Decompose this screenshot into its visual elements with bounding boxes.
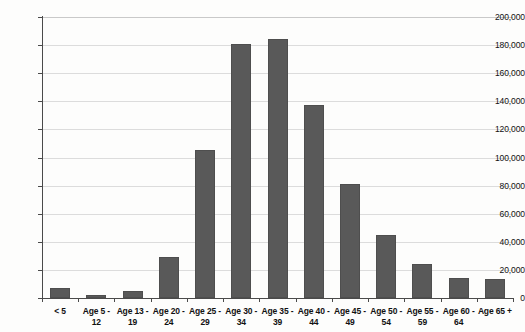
bar-chart: 020,00040,00060,00080,000100,000120,0001… bbox=[0, 0, 525, 332]
y-axis-tick-label: 160,000 bbox=[489, 68, 525, 78]
y-axis-tick-label: 0 bbox=[489, 293, 525, 303]
x-axis-tick-mark bbox=[114, 298, 115, 302]
bar bbox=[268, 39, 288, 298]
bar bbox=[449, 278, 469, 298]
x-axis-tick-mark bbox=[404, 298, 405, 302]
y-axis-tick-label: 140,000 bbox=[489, 96, 525, 106]
bar bbox=[412, 264, 432, 298]
y-axis-line bbox=[42, 16, 43, 299]
y-axis-tick-mark bbox=[38, 73, 42, 74]
x-axis-tick-mark bbox=[187, 298, 188, 302]
x-axis-tick-label-line1: Age 5 - bbox=[83, 306, 110, 316]
x-axis-tick-mark bbox=[332, 298, 333, 302]
y-axis-tick-mark bbox=[38, 214, 42, 215]
x-axis-tick-label: Age 65 + bbox=[473, 306, 517, 317]
x-axis-line bbox=[42, 298, 514, 299]
x-axis-tick-mark bbox=[513, 298, 514, 302]
y-axis-tick-label: 180,000 bbox=[489, 40, 525, 50]
x-axis-tick-label-line1: Age 45 - bbox=[334, 306, 366, 316]
x-axis-tick-mark bbox=[42, 298, 43, 302]
x-axis-tick-label-line1: Age 40 - bbox=[298, 306, 330, 316]
x-axis-tick-label-line1: Age 50 - bbox=[370, 306, 402, 316]
bar bbox=[195, 150, 215, 298]
y-axis-tick-label: 200,000 bbox=[489, 12, 525, 22]
x-axis-tick-label-line1: Age 30 - bbox=[225, 306, 257, 316]
x-axis-tick-mark bbox=[223, 298, 224, 302]
x-axis-tick-label-line1: Age 25 - bbox=[189, 306, 221, 316]
y-axis-tick-mark bbox=[38, 45, 42, 46]
gridline bbox=[42, 17, 513, 18]
y-axis-tick-mark bbox=[38, 158, 42, 159]
x-axis-tick-label-line1: Age 20 - bbox=[153, 306, 185, 316]
bar bbox=[340, 184, 360, 299]
y-axis-tick-mark bbox=[38, 270, 42, 271]
bar bbox=[123, 291, 143, 298]
x-axis-tick-label-line1: Age 60 - bbox=[443, 306, 475, 316]
bar bbox=[376, 235, 396, 298]
x-axis-tick-mark bbox=[477, 298, 478, 302]
y-axis-tick-mark bbox=[38, 129, 42, 130]
x-axis-tick-mark bbox=[296, 298, 297, 302]
y-axis-tick-mark bbox=[38, 242, 42, 243]
x-axis-tick-label-line1: Age 13 - bbox=[117, 306, 149, 316]
bar bbox=[304, 105, 324, 298]
x-axis-tick-mark bbox=[259, 298, 260, 302]
y-axis-tick-label: 60,000 bbox=[489, 209, 525, 219]
x-axis-tick-mark bbox=[368, 298, 369, 302]
y-axis-tick-label: 80,000 bbox=[489, 181, 525, 191]
bar bbox=[50, 288, 70, 298]
plot-area bbox=[42, 17, 513, 298]
y-axis-tick-label: 120,000 bbox=[489, 124, 525, 134]
y-axis-tick-label: 20,000 bbox=[489, 265, 525, 275]
y-axis-tick-mark bbox=[38, 101, 42, 102]
x-axis-tick-mark bbox=[151, 298, 152, 302]
x-axis-tick-label-line1: Age 35 - bbox=[262, 306, 294, 316]
x-axis-tick-label-line1: < 5 bbox=[54, 306, 66, 316]
x-axis-tick-label-line1: Age 65 + bbox=[478, 306, 512, 316]
y-axis-tick-mark bbox=[38, 17, 42, 18]
y-axis-tick-label: 100,000 bbox=[489, 153, 525, 163]
x-axis-tick-mark bbox=[78, 298, 79, 302]
x-axis-tick-label-line2: 64 bbox=[437, 317, 481, 328]
bar bbox=[231, 44, 251, 298]
bar bbox=[159, 257, 179, 298]
x-axis-tick-label-line1: Age 55 - bbox=[406, 306, 438, 316]
y-axis-tick-mark bbox=[38, 186, 42, 187]
x-axis-tick-mark bbox=[441, 298, 442, 302]
y-axis-tick-label: 40,000 bbox=[489, 237, 525, 247]
